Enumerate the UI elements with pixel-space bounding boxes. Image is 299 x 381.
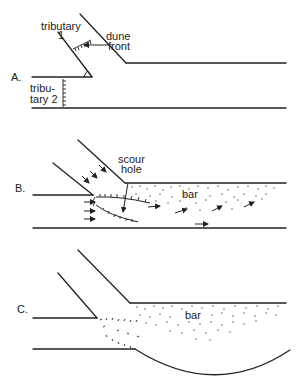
confluence-diagram: A. [0, 0, 299, 381]
bar-stipple [136, 305, 278, 340]
panel-a: A. [11, 14, 286, 108]
scoured-lower-bank-curve [135, 349, 290, 375]
tributary1-number: 1 [58, 29, 64, 41]
tributary1-flow-arrows [82, 165, 106, 183]
junction-angle-side [88, 71, 92, 77]
tributary2-label-line2: tary 2 [30, 93, 58, 105]
panel-a-label: A. [11, 71, 21, 83]
filled-scour-ticks [100, 318, 139, 348]
scour-hole-label-line2: hole [121, 163, 142, 175]
panel-c-label: C. [17, 303, 28, 315]
scour-hole-upper-edge [96, 197, 150, 203]
tributary1-left-bank [53, 163, 93, 195]
flow-arrow-icon [90, 171, 97, 178]
tributary1-left-bank [58, 273, 97, 318]
panel-b: B. [15, 140, 286, 228]
flow-arrow-icon [99, 165, 106, 172]
flow-arrow-icon [244, 202, 254, 207]
tributary1-right-bank [78, 250, 130, 303]
flow-arrow-icon [175, 209, 187, 213]
bar-label: bar [182, 188, 198, 200]
bar-label: bar [185, 309, 201, 321]
dune-front-label-line2: front [108, 40, 130, 52]
flow-arrow-icon [82, 176, 89, 183]
flow-arrow-icon [212, 206, 222, 211]
downstream-flow-arrows [148, 202, 254, 224]
panel-b-label: B. [15, 182, 25, 194]
panel-c: C. [17, 250, 290, 375]
dune-front-ticks-trib2 [63, 79, 66, 107]
flow-arrow-icon [148, 206, 160, 207]
